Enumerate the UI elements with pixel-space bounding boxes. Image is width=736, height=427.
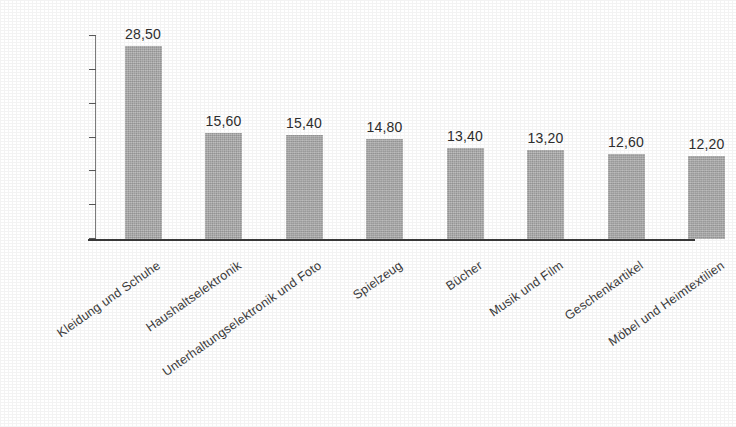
category-labels: Kleidung und SchuheHaushaltselektronikUn…	[0, 0, 736, 427]
bar-chart: 302520151050 28,5015,6015,4014,8013,4013…	[0, 0, 736, 427]
